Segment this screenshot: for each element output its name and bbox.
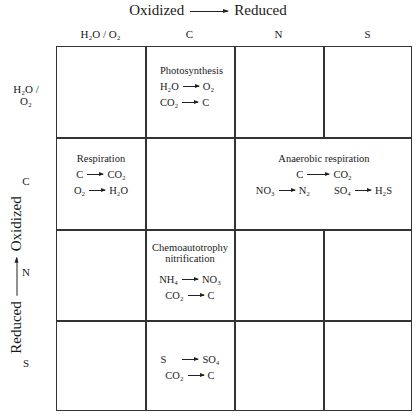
column-header-n: N: [234, 28, 323, 40]
grid-divider: [57, 229, 411, 231]
reactant: C: [296, 169, 303, 180]
grid-divider: [57, 137, 411, 139]
cell-photosynthesis: Photosynthesis H₂OO₂ CO₂C: [146, 65, 234, 108]
product: NO₃: [202, 274, 221, 285]
reactant: S: [161, 354, 167, 365]
arrow-icon: [89, 190, 105, 191]
reactant: H₂O: [160, 81, 179, 92]
product: H₂S: [375, 185, 392, 196]
cell-title: Respiration: [57, 153, 145, 164]
grid-divider: [323, 47, 325, 138]
arrow-icon: [87, 174, 103, 175]
row-header-c: C: [6, 175, 46, 187]
column-header-h2o-o2: H₂O / O₂: [56, 28, 145, 40]
column-header-c: C: [145, 28, 234, 40]
reactant: CO₂: [160, 97, 178, 108]
product: N₂: [299, 185, 310, 196]
top-axis-from: Oxidized: [129, 2, 184, 18]
arrow-icon: [188, 375, 204, 376]
product: CO₂: [107, 169, 125, 180]
arrow-icon: [183, 86, 199, 87]
cell-chemoautotrophy-nitrification: Chemoautotrophy nitrification NH₄NO₃ CO₂…: [146, 242, 234, 301]
redox-matrix-grid: Photosynthesis H₂OO₂ CO₂C Respiration CC…: [56, 46, 412, 411]
cell-title: Anaerobic respiration: [235, 153, 413, 164]
row-header-s: S: [6, 357, 46, 369]
cell-anaerobic-respiration: Anaerobic respiration CCO₂ NO₃N₂ SO₄H₂S: [235, 153, 413, 196]
row-header-h2o-o2: H₂O / O₂: [6, 83, 46, 107]
arrow-icon: [188, 295, 204, 296]
arrow-icon: [182, 279, 198, 280]
cell-chemoautotrophy-sulfur: SSO₄ CO₂C: [146, 349, 234, 381]
cell-subtitle: nitrification: [146, 253, 234, 264]
arrow-icon: [279, 190, 295, 191]
cell-title: Chemoautotrophy: [146, 242, 234, 253]
product: C: [208, 290, 215, 301]
left-axis-to: Oxidized: [8, 196, 24, 251]
product: CO₂: [333, 169, 351, 180]
product: O₂: [203, 81, 214, 92]
reactant: CO₂: [165, 370, 183, 381]
grid-divider: [57, 320, 411, 322]
product: C: [202, 97, 209, 108]
top-axis-label: OxidizedReduced: [0, 0, 416, 20]
reactant: NO₃: [256, 185, 275, 196]
cell-title: Photosynthesis: [160, 65, 234, 76]
top-axis-to: Reduced: [234, 2, 286, 18]
arrow-icon: [307, 174, 329, 175]
row-header-n: N: [6, 266, 46, 278]
product: SO₄: [202, 354, 219, 365]
arrow-icon: [182, 102, 198, 103]
reactant: C: [76, 169, 83, 180]
reactant: SO₄: [334, 185, 351, 196]
left-axis-from: Reduced: [8, 301, 24, 353]
right-arrow-icon: [190, 11, 228, 12]
cell-respiration: Respiration CCO₂ O₂H₂O: [57, 153, 145, 196]
reactant: CO₂: [165, 290, 183, 301]
reactant: O₂: [74, 185, 85, 196]
product: H₂O: [109, 185, 128, 196]
product: C: [208, 370, 215, 381]
arrow-icon: [355, 190, 371, 191]
column-header-s: S: [323, 28, 412, 40]
arrow-icon: [182, 359, 198, 360]
reactant: NH₄: [159, 274, 178, 285]
